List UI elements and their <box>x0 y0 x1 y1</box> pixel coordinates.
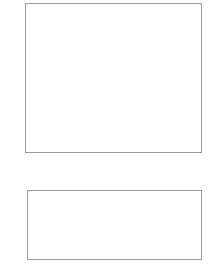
figure-canvas <box>0 0 210 267</box>
residual-plot-frame <box>28 191 202 260</box>
residual-panel <box>0 0 202 260</box>
statistics-figure <box>0 0 210 267</box>
scatter-panel <box>0 0 202 153</box>
scatter-plot-frame <box>26 4 202 153</box>
